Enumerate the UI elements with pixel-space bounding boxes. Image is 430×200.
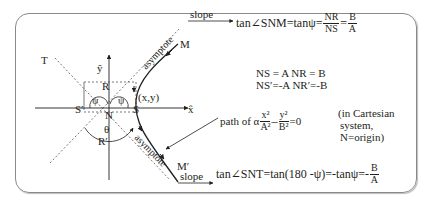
label-psi-right: ψ: [118, 95, 125, 106]
label-N: N: [105, 109, 113, 121]
equation-path: path of α x² A² – y² B² =0: [220, 110, 301, 132]
cartesian-note-3: N=origin): [340, 132, 384, 143]
label-theta: θ: [104, 123, 109, 135]
label-point: (x,y): [138, 91, 159, 104]
label-y-axis: ŷ: [97, 62, 103, 74]
cartesian-note-2: system,: [340, 120, 373, 131]
fraction-nr-ns: NR NS: [323, 12, 339, 34]
equation-top: tan∠SNM=tanψ= NR NS = B A: [236, 12, 358, 34]
ns-line-1: NS = A NR = B: [256, 68, 326, 79]
label-asymptote-top: asymptote: [139, 33, 175, 71]
label-R: R: [102, 80, 110, 92]
label-x-axis: x̂: [188, 103, 194, 115]
label-S-prime: S′: [75, 103, 84, 115]
ns-line-2: NS′=-A NR′=-B: [256, 80, 327, 91]
label-slope-bottom: slope: [180, 170, 203, 182]
label-slope-top: slope: [190, 8, 213, 20]
fraction-b-a: B A: [348, 12, 357, 34]
label-T: T: [41, 54, 48, 66]
label-asymptote-bottom: asymptote: [133, 132, 170, 170]
equation-bottom: tan∠SNT=tan(180 -ψ)=-tanψ=- B A: [216, 163, 380, 185]
label-psi-left: ψ: [92, 95, 99, 106]
label-R-prime: R′: [98, 135, 108, 147]
label-M: M: [180, 38, 190, 50]
label-S: S: [133, 103, 139, 115]
eq-top-prefix: tan∠SNM=tanψ=: [236, 17, 322, 29]
cartesian-note-1: (in Cartesian: [338, 108, 395, 119]
